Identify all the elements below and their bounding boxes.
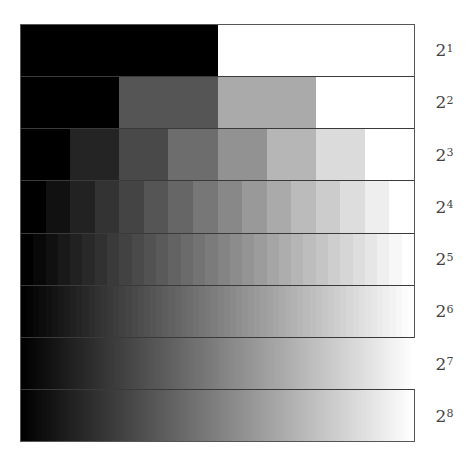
gray-band — [95, 234, 107, 285]
label-base: 2 — [436, 249, 447, 269]
gray-band — [402, 234, 414, 285]
gray-band — [193, 181, 218, 232]
label-base: 2 — [436, 145, 447, 165]
gray-band — [365, 129, 414, 180]
gray-band — [340, 234, 352, 285]
gray-level-row-8 — [21, 129, 414, 181]
gray-band — [132, 234, 144, 285]
row-label-128: 27 — [420, 338, 469, 390]
gray-level-row-256 — [21, 390, 414, 441]
gray-band — [70, 129, 119, 180]
gray-band — [389, 234, 401, 285]
gray-band — [107, 234, 119, 285]
gray-band — [205, 234, 217, 285]
gray-band — [389, 181, 414, 232]
gray-band — [242, 234, 254, 285]
gray-band — [328, 234, 340, 285]
gray-band — [365, 181, 390, 232]
gray-band — [119, 129, 168, 180]
row-label-256: 28 — [420, 390, 469, 442]
row-label-16: 24 — [420, 181, 469, 233]
gray-band — [181, 234, 193, 285]
gray-band — [21, 181, 46, 232]
gray-band — [46, 181, 71, 232]
gray-band — [218, 77, 316, 128]
gray-band — [168, 181, 193, 232]
row-label-8: 23 — [420, 129, 469, 181]
gray-band — [119, 77, 217, 128]
gray-band — [46, 234, 58, 285]
row-label-4: 22 — [420, 76, 469, 128]
gray-band — [144, 181, 169, 232]
label-base: 2 — [436, 197, 447, 217]
gray-level-row-2 — [21, 25, 414, 77]
label-base: 2 — [436, 92, 447, 112]
gray-band — [242, 181, 267, 232]
gray-band — [316, 234, 328, 285]
gray-band — [377, 234, 389, 285]
gray-band — [316, 129, 365, 180]
row-label-64: 26 — [420, 285, 469, 337]
row-label-32: 25 — [420, 233, 469, 285]
gray-band — [291, 181, 316, 232]
gray-band — [365, 234, 377, 285]
gray-band — [411, 390, 413, 441]
gray-band — [303, 234, 315, 285]
gray-band — [267, 181, 292, 232]
label-base: 2 — [436, 40, 447, 60]
gray-band — [21, 77, 119, 128]
gray-band — [168, 234, 180, 285]
gray-band — [82, 234, 94, 285]
gray-band — [316, 77, 414, 128]
gray-band — [70, 234, 82, 285]
gray-level-row-128 — [21, 338, 414, 390]
gray-band — [168, 129, 217, 180]
gray-band — [95, 181, 120, 232]
gray-band — [279, 234, 291, 285]
label-exponent: 6 — [446, 303, 453, 316]
gray-band — [21, 129, 70, 180]
gray-band — [291, 234, 303, 285]
gray-band — [412, 338, 415, 389]
gray-band — [156, 234, 168, 285]
gray-band — [218, 181, 243, 232]
label-base: 2 — [436, 354, 447, 374]
label-exponent: 5 — [446, 251, 453, 264]
gray-band — [218, 25, 415, 76]
gray-band — [33, 234, 45, 285]
gray-band — [340, 181, 365, 232]
label-exponent: 7 — [446, 355, 453, 368]
gray-band — [267, 234, 279, 285]
gray-band — [21, 234, 33, 285]
gray-band — [316, 181, 341, 232]
label-exponent: 4 — [446, 198, 453, 211]
gray-level-row-32 — [21, 234, 414, 286]
gray-band — [70, 181, 95, 232]
gray-band — [408, 286, 414, 337]
gray-band — [144, 234, 156, 285]
label-base: 2 — [436, 301, 447, 321]
gray-band — [353, 234, 365, 285]
gray-band — [267, 129, 316, 180]
quantization-figure — [20, 24, 415, 442]
level-labels: 2122232425262728 — [420, 24, 469, 442]
label-exponent: 1 — [446, 42, 453, 55]
gray-level-row-16 — [21, 181, 414, 233]
label-base: 2 — [436, 406, 447, 426]
label-exponent: 8 — [446, 407, 453, 420]
gray-band — [218, 234, 230, 285]
gray-band — [119, 234, 131, 285]
row-label-2: 21 — [420, 24, 469, 76]
gray-band — [119, 181, 144, 232]
label-exponent: 2 — [446, 94, 453, 107]
gray-band — [218, 129, 267, 180]
gray-level-row-4 — [21, 77, 414, 129]
gray-band — [193, 234, 205, 285]
gray-band — [21, 25, 218, 76]
label-exponent: 3 — [446, 146, 453, 159]
gray-level-row-64 — [21, 286, 414, 338]
gray-band — [230, 234, 242, 285]
gray-band — [254, 234, 266, 285]
gray-band — [58, 234, 70, 285]
